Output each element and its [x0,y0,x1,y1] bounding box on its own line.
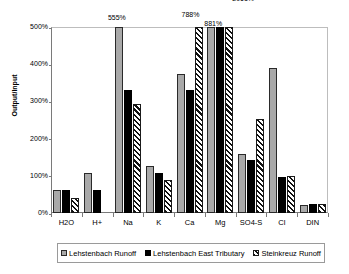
x-axis-labels: H2OH+NaKCaMgSO4-SClDIN [51,218,328,227]
y-axis-tick-label: 100% [30,172,48,179]
bar-value-label: 2061% [232,0,254,2]
x-axis-tick-mark [328,213,329,217]
legend-item: Steinkreuz Runoff [253,249,320,258]
legend-item-label: Lehstenbach Runoff [69,249,136,258]
x-axis-tick-label: DIN [297,218,328,227]
y-axis-tick-mark [49,28,52,29]
x-axis-ticks [51,213,328,217]
bar-chart: Output/Input 0%100%200%300%400%500% H2OH… [0,0,349,274]
x-axis-tick-mark [266,213,267,217]
x-axis-tick-label: Mg [205,218,236,227]
legend-swatch [145,250,151,256]
y-axis-tick-label: 400% [30,60,48,67]
x-axis-tick-label: H2O [51,218,82,227]
x-axis-tick-mark [236,213,237,217]
x-axis-tick-mark [205,213,206,217]
y-axis-title: Output/Input [11,56,18,136]
x-axis-tick-label: H+ [82,218,113,227]
legend-item: Lehstenbach East Tributary [145,249,244,258]
x-axis-tick-mark [51,213,52,217]
x-axis-tick-label: Cl [266,218,297,227]
legend-item-label: Lehstenbach East Tributary [153,249,244,258]
bar-value-label: 881% [204,20,222,27]
y-axis-tick-label: 0% [38,209,48,216]
x-axis-tick-mark [113,213,114,217]
legend-swatch [253,250,259,256]
legend-item: Lehstenbach Runoff [61,249,136,258]
y-axis-tick-mark [49,102,52,103]
legend-swatch [61,250,67,256]
y-axis-tick-mark [49,139,52,140]
x-axis-tick-label: K [143,218,174,227]
y-axis-tick-label: 300% [30,97,48,104]
y-axis-tick-mark [49,176,52,177]
legend-item-label: Steinkreuz Runoff [261,249,320,258]
y-axis-tick-label: 500% [30,23,48,30]
plot-area: 0%100%200%300%400%500% [51,27,328,213]
x-axis-tick-label: Na [113,218,144,227]
x-axis-tick-label: SO4-S [236,218,267,227]
x-axis-tick-mark [297,213,298,217]
y-axis-tick-mark [49,65,52,66]
x-axis-tick-label: Ca [174,218,205,227]
bar-value-label: 555% [108,14,126,21]
x-axis-tick-mark [143,213,144,217]
y-axis-tick-label: 200% [30,135,48,142]
x-axis-tick-mark [82,213,83,217]
chart-legend: Lehstenbach RunoffLehstenbach East Tribu… [57,243,325,263]
bar-value-label: 788% [182,11,200,18]
x-axis-tick-mark [174,213,175,217]
